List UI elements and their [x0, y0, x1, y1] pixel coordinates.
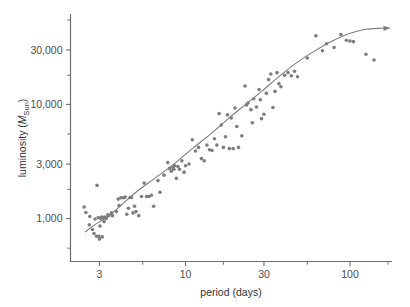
scatter-point — [127, 206, 131, 210]
scatter-point — [150, 193, 154, 197]
scatter-point — [123, 195, 127, 199]
scatter-point — [240, 134, 244, 138]
y-axis-title-symbol: M — [16, 115, 28, 124]
scatter-point — [345, 38, 349, 42]
scatter-point — [283, 73, 287, 77]
scatter-point — [233, 106, 237, 110]
chart-figure: 1,0003,00010,00030,000 31030100 period (… — [0, 0, 410, 307]
scatter-point — [271, 106, 275, 110]
scatter-point — [95, 184, 99, 188]
scatter-point — [273, 90, 277, 94]
scatter-point — [215, 143, 219, 147]
scatter-point — [277, 82, 281, 86]
scatter-point — [137, 214, 141, 218]
scatter-point — [130, 196, 134, 200]
scatter-point — [246, 101, 250, 105]
y-tick-label: 1,000 — [36, 212, 62, 224]
scatter-point — [191, 138, 195, 142]
scatter-point — [314, 34, 318, 38]
scatter-point — [88, 215, 92, 219]
scatter-point — [140, 195, 144, 199]
scatter-point — [98, 224, 102, 228]
scatter-point — [210, 149, 214, 153]
scatter-point — [257, 88, 261, 92]
scatter-point — [82, 205, 86, 209]
scatter-point — [178, 167, 182, 171]
scatter-point — [364, 52, 368, 56]
scatter-point — [237, 146, 241, 150]
scatter-point — [205, 143, 209, 147]
scatter-point — [325, 42, 329, 46]
scatter-point — [182, 170, 186, 174]
x-tick-label: 100 — [341, 268, 359, 280]
scatter-point — [194, 149, 198, 153]
y-axis-title-subscript: Sun — [22, 102, 31, 115]
scatter-point — [224, 135, 228, 139]
scatter-point — [230, 116, 234, 120]
scatter-point — [117, 204, 121, 208]
x-axis-ticks — [99, 262, 387, 267]
scatter-point — [286, 71, 290, 75]
scatter-point — [219, 123, 223, 127]
scatter-point — [175, 177, 179, 181]
scatter-point — [115, 210, 119, 214]
scatter-point — [243, 84, 247, 88]
scatter-point — [348, 39, 352, 43]
scatter-point — [104, 217, 108, 221]
fit-curve-arrowhead — [383, 26, 390, 31]
scatter-point — [260, 117, 264, 121]
y-axis-title-prefix: luminosity ( — [16, 124, 28, 178]
scatter-point — [173, 164, 177, 168]
scatter-point — [102, 220, 106, 224]
y-tick-label: 10,000 — [30, 98, 62, 110]
scatter-point — [228, 147, 232, 151]
scatter-point — [265, 92, 269, 96]
scatter-plot: 1,0003,00010,00030,000 31030100 period (… — [0, 0, 410, 307]
scatter-point — [305, 56, 309, 60]
scatter-point — [262, 112, 266, 116]
scatter-point — [152, 204, 156, 208]
scatter-point — [252, 97, 256, 101]
x-axis-tick-labels: 31030100 — [97, 268, 359, 280]
scatter-point-group — [82, 33, 376, 241]
scatter-point — [93, 217, 97, 221]
scatter-point — [275, 71, 279, 75]
scatter-point — [296, 75, 300, 79]
scatter-point — [200, 157, 204, 161]
scatter-point — [372, 58, 376, 62]
scatter-point — [87, 223, 91, 227]
scatter-point — [92, 232, 96, 236]
scatter-point — [158, 190, 162, 194]
y-axis-ticks — [66, 20, 71, 248]
scatter-point — [172, 167, 176, 171]
scatter-point — [231, 147, 235, 151]
scatter-point — [321, 49, 325, 53]
scatter-point — [166, 161, 170, 165]
scatter-point — [134, 210, 138, 214]
scatter-point — [202, 159, 206, 163]
axes — [70, 14, 392, 262]
x-tick-label: 3 — [97, 268, 103, 280]
scatter-point — [279, 85, 283, 89]
y-axis-title-suffix: ) — [16, 99, 28, 103]
scatter-point — [156, 179, 160, 183]
x-axis-title: period (days) — [200, 286, 261, 298]
x-tick-label: 30 — [258, 268, 270, 280]
scatter-point — [222, 146, 226, 150]
scatter-point — [249, 108, 253, 112]
scatter-point — [339, 33, 343, 37]
scatter-point — [125, 212, 129, 216]
svg-text:luminosity (MSun): luminosity (MSun) — [16, 99, 31, 178]
scatter-point — [107, 214, 111, 218]
scatter-point — [91, 228, 95, 232]
scatter-point — [197, 146, 201, 150]
scatter-point — [251, 121, 255, 125]
scatter-point — [235, 125, 239, 129]
scatter-point — [213, 137, 217, 141]
scatter-point — [217, 112, 221, 116]
scatter-point — [226, 113, 230, 117]
y-tick-label: 3,000 — [36, 158, 62, 170]
scatter-point — [133, 204, 137, 208]
x-tick-label: 10 — [180, 268, 192, 280]
scatter-point — [84, 211, 88, 215]
